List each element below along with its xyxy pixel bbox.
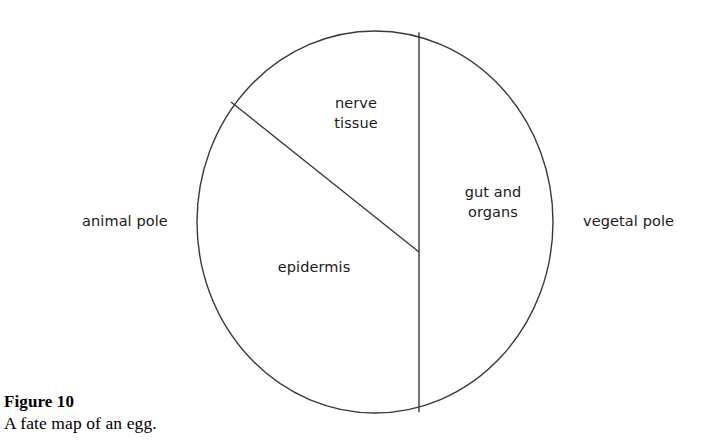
figure-container: nerve tissue gut and organs epidermis an… <box>0 0 711 444</box>
annotation-vegetal-pole: vegetal pole <box>583 211 703 231</box>
figure-caption-text: A fate map of an egg. <box>4 412 334 434</box>
figure-caption-title: Figure 10 <box>4 392 334 412</box>
region-label-epidermis: epidermis <box>258 257 370 277</box>
figure-caption: Figure 10 A fate map of an egg. <box>4 392 334 434</box>
region-label-gut-and-organs: gut and organs <box>447 182 539 222</box>
annotation-animal-pole: animal pole <box>82 211 192 231</box>
egg-outline-circle <box>197 31 553 413</box>
region-label-nerve-tissue: nerve tissue <box>310 93 402 133</box>
